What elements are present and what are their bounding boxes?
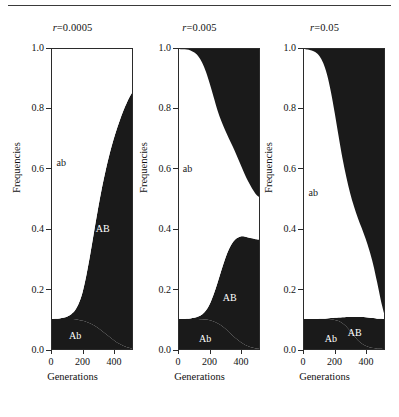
region-label-ab: ab [308,188,317,198]
x-tick-mark [83,350,84,354]
panel-title-param: r [53,22,57,33]
y-tick-label: 1.0 [10,43,44,53]
panel-title-value: 0.0005 [63,22,92,33]
panel-title: r=0.005 [133,22,266,33]
plot-area: abABAb [51,48,133,350]
plot-canvas [52,49,132,349]
y-tick-label: 0.8 [137,103,171,113]
y-tick-mark [173,168,178,169]
panel-title-value: 0.05 [320,22,339,33]
y-tick-label: 0.2 [137,285,171,295]
panel-r-0.0005: r=0.0005 abABAb Frequencies Generations … [6,22,139,402]
region-label-AB: AB [348,328,362,338]
y-tick-label: 0.6 [137,164,171,174]
panel-title: r=0.05 [258,22,391,33]
y-tick-mark [173,289,178,290]
x-tick-label: 400 [226,356,256,367]
x-tick-mark [51,350,52,354]
y-tick-label: 0.6 [262,164,296,174]
y-tick-mark [46,48,51,49]
y-tick-label: 0.0 [262,345,296,355]
panel-r-0.005: r=0.005 abABAb Frequencies Generations 0… [133,22,266,402]
panel-title-value: 0.005 [193,22,217,33]
page-rule [8,5,391,6]
x-tick-mark [210,350,211,354]
y-tick-mark [46,168,51,169]
y-tick-mark [298,168,303,169]
y-tick-mark [46,229,51,230]
y-tick-mark [298,48,303,49]
x-tick-label: 400 [99,356,129,367]
x-tick-mark [366,350,367,354]
x-tick-label: 400 [351,356,381,367]
y-tick-label: 0.8 [10,103,44,113]
y-tick-mark [298,289,303,290]
x-tick-label: 200 [195,356,225,367]
y-tick-label: 1.0 [137,43,171,53]
x-tick-mark [178,350,179,354]
x-axis-title: Generations [258,371,391,382]
x-tick-label: 200 [320,356,350,367]
x-tick-label: 0 [36,356,66,367]
plot-area: abABAb [303,48,385,350]
panel-group: r=0.0005 abABAb Frequencies Generations … [0,22,399,402]
y-tick-mark [46,108,51,109]
region-label-Ab: Ab [199,334,211,344]
region-label-ab: ab [183,164,192,174]
plot-canvas [179,49,259,349]
y-tick-label: 0.2 [10,285,44,295]
y-tick-mark [173,108,178,109]
panel-r-0.05: r=0.05 abABAb Frequencies Generations 0.… [258,22,391,402]
x-tick-label: 0 [288,356,318,367]
x-tick-mark [241,350,242,354]
y-tick-label: 0.8 [262,103,296,113]
region-label-Ab: Ab [69,331,81,341]
plot-area: abABAb [178,48,260,350]
region-label-Ab: Ab [325,334,337,344]
region-label-ab: ab [56,158,65,168]
panel-title: r=0.0005 [6,22,139,33]
y-tick-label: 0.4 [137,224,171,234]
region-label-AB: AB [223,293,237,303]
panel-title-param: r [310,22,314,33]
plot-canvas [304,49,384,349]
y-tick-mark [298,108,303,109]
x-tick-mark [335,350,336,354]
x-tick-mark [114,350,115,354]
panel-title-param: r [182,22,186,33]
region-label-AB: AB [96,224,110,234]
figure-stacked-area-haplotype-frequencies: r=0.0005 abABAb Frequencies Generations … [0,0,399,417]
y-tick-mark [46,289,51,290]
y-tick-label: 0.0 [10,345,44,355]
x-axis-title: Generations [6,371,139,382]
x-tick-mark [303,350,304,354]
x-tick-label: 0 [163,356,193,367]
y-tick-label: 0.2 [262,285,296,295]
y-tick-label: 0.4 [262,224,296,234]
y-tick-mark [173,48,178,49]
y-tick-label: 0.6 [10,164,44,174]
y-tick-mark [298,229,303,230]
x-axis-title: Generations [133,371,266,382]
y-tick-label: 0.4 [10,224,44,234]
y-tick-label: 1.0 [262,43,296,53]
y-tick-label: 0.0 [137,345,171,355]
x-tick-label: 200 [68,356,98,367]
y-tick-mark [173,229,178,230]
